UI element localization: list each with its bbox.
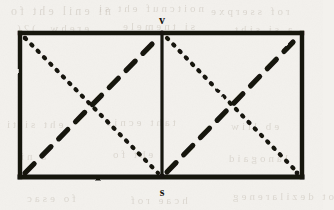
vertex-marker-top-left — [23, 36, 27, 40]
vertex-label-v: v — [152, 14, 172, 26]
vertex-marker-bottom-center — [159, 173, 164, 178]
vertex-marker-top-center — [160, 31, 165, 36]
vertex-label-s: s — [152, 186, 172, 198]
vertex-marker-bottom-right — [295, 171, 300, 176]
